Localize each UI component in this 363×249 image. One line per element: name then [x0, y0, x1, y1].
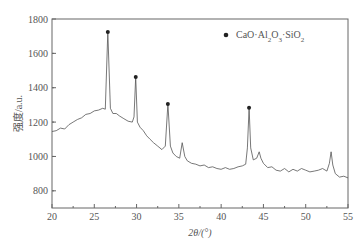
x-tick-label: 20 — [47, 211, 57, 222]
xrd-trace — [52, 32, 348, 178]
y-tick-label: 1800 — [28, 14, 48, 25]
y-tick-label: 1000 — [28, 151, 48, 162]
x-tick-label: 25 — [89, 211, 99, 222]
y-tick-label: 800 — [33, 185, 48, 196]
plot-area: 2025303540455055800100012001400160018002… — [0, 0, 363, 249]
peak-marker-icon — [166, 102, 170, 106]
x-tick-label: 35 — [174, 211, 184, 222]
peak-marker-icon — [134, 75, 138, 79]
x-tick-label: 55 — [343, 211, 353, 222]
x-tick-label: 50 — [301, 211, 311, 222]
peak-marker-icon — [247, 106, 251, 110]
y-tick-label: 1200 — [28, 117, 48, 128]
plot-frame — [52, 19, 348, 208]
y-tick-label: 1400 — [28, 82, 48, 93]
legend-marker-icon — [224, 33, 229, 38]
y-tick-label: 1600 — [28, 48, 48, 59]
x-tick-label: 40 — [216, 211, 226, 222]
y-axis-title: 强度/a.u. — [12, 95, 24, 132]
legend-label: CaO·Al2O3·SiO2 — [236, 29, 305, 44]
x-tick-label: 45 — [258, 211, 268, 222]
x-axis-title: 2θ/(°) — [188, 227, 212, 239]
xrd-chart: 2025303540455055800100012001400160018002… — [0, 0, 363, 249]
peak-marker-icon — [106, 30, 110, 34]
x-tick-label: 30 — [132, 211, 142, 222]
